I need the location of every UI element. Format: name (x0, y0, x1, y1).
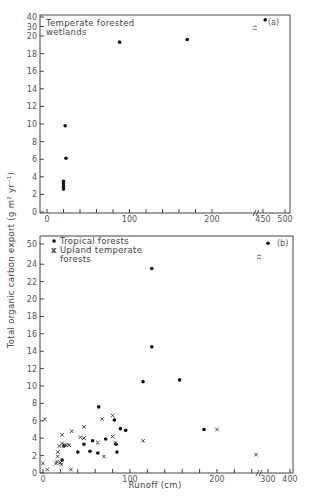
data-point-tropical (82, 442, 86, 446)
data-point (185, 38, 189, 42)
y-tick-label: 18 (27, 50, 37, 59)
y-tick-label: 40 (27, 13, 37, 22)
data-point-upland (141, 439, 145, 443)
x-tick-label: 200 (209, 475, 224, 484)
y-tick-label: 8 (32, 138, 37, 147)
data-point-tropical (150, 345, 154, 349)
panel-b-legend-upland-2: forests (60, 254, 91, 264)
data-point-tropical (150, 267, 154, 271)
data-point (64, 157, 68, 161)
data-point-upland (43, 417, 47, 421)
y-tick-label: 14 (27, 85, 37, 94)
data-point-upland (215, 428, 219, 432)
y-tick-label: 8 (32, 399, 37, 408)
panel-b-points (41, 241, 270, 471)
y-axis-label: Total organic carbon export (g m² yr⁻¹) (6, 172, 16, 349)
data-point-upland (41, 462, 45, 466)
y-tick-label: 14 (27, 347, 37, 356)
y-tick-label: 12 (27, 102, 37, 111)
y-tick-label: 30 (27, 23, 37, 32)
x-tick-label: 450 (255, 215, 270, 224)
data-point-upland (102, 455, 106, 459)
y-tick-label: 20 (27, 32, 37, 41)
y-tick-label: 16 (27, 67, 37, 76)
y-tick-label: 0 (32, 469, 37, 478)
panel-a-frame (40, 15, 290, 213)
y-tick-label: 6 (32, 155, 37, 164)
panel-a-points (62, 18, 267, 191)
x-tick-label: 0 (44, 215, 49, 224)
x-tick-label: 100 (122, 215, 137, 224)
x-tick-label: 200 (204, 215, 219, 224)
x-tick-label: 0 (40, 475, 45, 484)
data-point-tropical (202, 428, 206, 432)
data-point (118, 40, 122, 44)
y-tick-label: 2 (32, 190, 37, 199)
data-point-upland (254, 453, 258, 457)
point-break-icon (257, 255, 261, 259)
data-point-upland (56, 450, 60, 454)
legend-dot-icon (52, 239, 56, 243)
data-point-tropical (96, 451, 100, 455)
panel-b: (b) Tropical forests x Upland temperate … (27, 236, 298, 490)
data-point-tropical (141, 380, 145, 384)
point-break-icon (253, 26, 257, 30)
data-point-upland (82, 436, 86, 440)
x-tick-label: 500 (277, 215, 292, 224)
data-point (263, 18, 267, 22)
data-point-tropical (115, 450, 119, 454)
y-tick-label: 2 (32, 452, 37, 461)
y-tick-label: 22 (27, 278, 37, 287)
data-point-tropical (104, 437, 108, 441)
y-tick-label: 12 (27, 365, 37, 374)
data-point-tropical (76, 450, 80, 454)
y-tick-label: 6 (32, 417, 37, 426)
data-point-upland (67, 443, 71, 447)
data-point-upland (82, 425, 86, 429)
y-tick-label: 20 (27, 295, 37, 304)
legend-x-icon: x (51, 245, 57, 255)
panel-b-frame (40, 236, 293, 473)
data-point-tropical (266, 241, 270, 245)
y-tick-label: 24 (27, 260, 37, 269)
panel-b-label: (b) (277, 239, 288, 248)
data-point-tropical (124, 429, 128, 433)
data-point-tropical (119, 427, 123, 431)
panel-a: (a) Temperate forested wetlands 02468101… (27, 13, 293, 224)
y-tick-label: 4 (32, 173, 37, 182)
data-point-upland (79, 436, 83, 440)
data-point (62, 179, 66, 183)
x-tick-label: 400 (282, 475, 297, 484)
data-point-upland (56, 455, 60, 459)
y-tick-label: 10 (27, 120, 37, 129)
panel-a-ticks: 0246810121416182030400100200450500 (27, 13, 293, 224)
data-point-tropical (97, 405, 101, 409)
data-point-upland (46, 468, 50, 472)
data-point-upland (111, 435, 115, 439)
data-point-upland (96, 441, 100, 445)
panel-b-ticks: 024681012141618202224500100200300400 (27, 240, 298, 484)
data-point-upland (70, 429, 74, 433)
y-tick-label: 0 (32, 208, 37, 217)
y-tick-label: 16 (27, 330, 37, 339)
panel-a-legend-line2: wetlands (46, 27, 87, 37)
data-point-tropical (113, 418, 117, 422)
y-tick-label: 10 (27, 382, 37, 391)
data-point-tropical (178, 378, 182, 382)
panel-a-label: (a) (268, 18, 279, 27)
data-point-upland (69, 468, 73, 472)
x-axis-label: Runoff (cm) (128, 480, 181, 490)
x-tick-label: 300 (260, 475, 275, 484)
y-tick-label: 18 (27, 312, 37, 321)
figure: Total organic carbon export (g m² yr⁻¹) … (0, 0, 310, 501)
y-tick-label: 50 (27, 240, 37, 249)
y-tick-label: 4 (32, 434, 37, 443)
data-point-tropical (91, 439, 95, 443)
data-point (63, 124, 67, 128)
data-point-upland (111, 414, 115, 418)
data-point-upland (60, 433, 64, 437)
data-point-upland (100, 417, 104, 421)
data-point-tropical (88, 449, 92, 453)
